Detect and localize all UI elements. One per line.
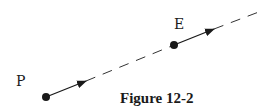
figure-12-2: P E Figure 12-2	[0, 0, 276, 111]
vector-arrow-at-p	[46, 81, 86, 97]
point-e-dot	[170, 41, 178, 49]
point-p-dot	[42, 93, 50, 101]
figure-caption: Figure 12-2	[120, 91, 193, 106]
point-e-label: E	[174, 17, 184, 31]
point-p-label: P	[16, 74, 25, 88]
dashed-trajectory-line	[86, 45, 174, 81]
dashed-trajectory-extension	[214, 10, 264, 29]
